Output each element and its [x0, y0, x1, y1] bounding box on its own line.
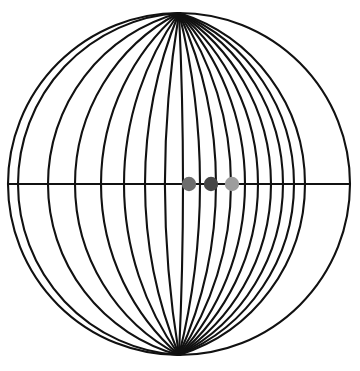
figure-root	[0, 0, 360, 371]
dot-right	[225, 177, 239, 191]
diagram-svg	[0, 0, 360, 371]
dot-middle	[204, 177, 218, 191]
marked-points-group	[182, 177, 239, 191]
dot-left	[182, 177, 196, 191]
